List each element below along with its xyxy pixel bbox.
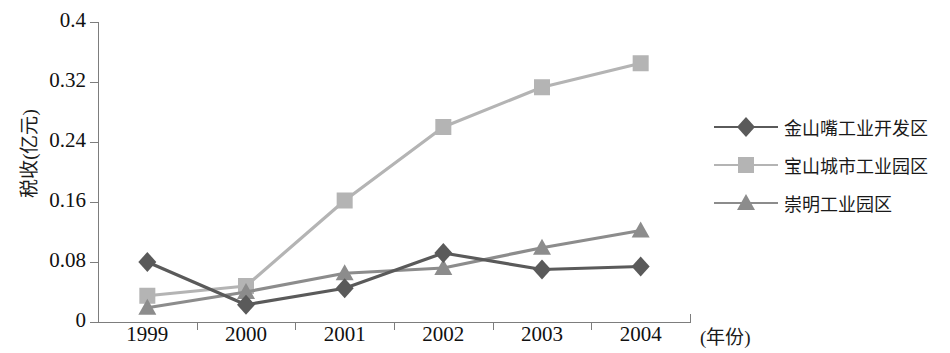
legend-label: 崇明工业园区 [778, 190, 892, 216]
y-tick-mark [90, 82, 98, 83]
y-tick-mark [90, 262, 98, 263]
legend-marker-diamond [714, 117, 778, 137]
series-group [138, 243, 649, 315]
y-tick-label: 0.32 [16, 70, 86, 91]
x-axis-title: (年份) [700, 322, 751, 349]
square-marker [435, 119, 451, 135]
legend-item-1[interactable]: 金山嘴工业开发区 [714, 108, 950, 146]
legend-symbol-diamond-icon [736, 117, 756, 137]
diamond-marker [533, 260, 551, 280]
series-line [147, 63, 640, 296]
x-tick-mark [394, 322, 395, 330]
x-tick-label: 1999 [102, 322, 192, 347]
x-tick-label: 2000 [201, 322, 291, 347]
diamond-marker [434, 243, 452, 263]
y-tick-mark [90, 322, 98, 323]
y-tick-label: 0.4 [16, 10, 86, 31]
legend-symbol-square-icon [736, 155, 756, 175]
y-tick-label: 0.16 [16, 190, 86, 211]
plot-area [98, 22, 690, 322]
y-tick-label: 0.08 [16, 250, 86, 271]
legend-marker-triangle [714, 193, 778, 213]
x-tick-mark [493, 322, 494, 330]
x-tick-label: 2001 [300, 322, 390, 347]
diamond-marker [336, 278, 354, 298]
x-tick-mark [591, 322, 592, 330]
diamond-marker [632, 257, 650, 277]
triangle-marker [737, 194, 755, 210]
y-tick-mark [90, 202, 98, 203]
x-tick-mark [295, 322, 296, 330]
legend-label: 宝山城市工业园区 [778, 152, 928, 178]
x-tick-label: 2004 [596, 322, 686, 347]
triangle-marker [632, 222, 650, 238]
legend-symbol-triangle-icon [736, 193, 756, 213]
legend-label: 金山嘴工业开发区 [778, 114, 928, 140]
legend-item-3[interactable]: 崇明工业园区 [714, 184, 950, 222]
y-axis-title: 税收(亿元) [14, 69, 41, 239]
square-marker [534, 79, 550, 95]
legend-marker-square [714, 155, 778, 175]
y-tick-label: 0.24 [16, 130, 86, 151]
diamond-marker [737, 117, 755, 137]
x-tick-label: 2002 [398, 322, 488, 347]
y-tick-mark [90, 22, 98, 23]
legend-item-2[interactable]: 宝山城市工业园区 [714, 146, 950, 184]
series-plot [98, 22, 690, 322]
tax-revenue-line-chart: 税收(亿元) 00.080.160.240.320.4 199920002001… [0, 0, 950, 353]
square-marker [337, 193, 353, 209]
x-tick-mark [197, 322, 198, 330]
y-tick-mark [90, 142, 98, 143]
series-group [139, 55, 648, 304]
square-marker [633, 55, 649, 71]
y-tick-label: 0 [16, 310, 86, 331]
diamond-marker [138, 252, 156, 272]
x-tick-mark [690, 314, 691, 323]
x-tick-label: 2003 [497, 322, 587, 347]
square-marker [738, 157, 754, 173]
legend: 金山嘴工业开发区宝山城市工业园区崇明工业园区 [714, 108, 950, 222]
